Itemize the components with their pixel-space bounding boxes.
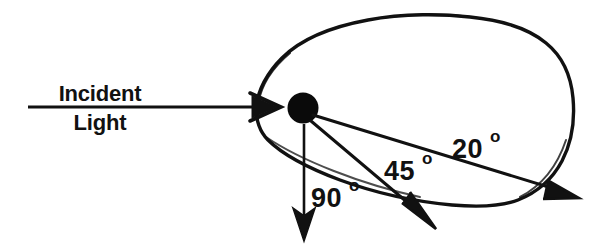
label-20-degrees: 20 o — [452, 127, 500, 164]
incident-label-line1: Incident — [59, 81, 143, 106]
label-90-degrees: 90 o — [311, 176, 359, 213]
label-90-number: 90 — [311, 183, 342, 213]
label-20-number: 20 — [452, 134, 483, 164]
label-45-degree-symbol: o — [422, 149, 432, 168]
incident-label-line2: Light — [74, 110, 128, 135]
label-90-degree-symbol: o — [349, 176, 359, 195]
scattering-diagram: Incident Light 20 o 45 o 90 o — [0, 0, 594, 245]
label-45-degrees: 45 o — [384, 149, 432, 186]
scattering-particle — [288, 93, 319, 124]
diagram-canvas: Incident Light 20 o 45 o 90 o — [0, 0, 594, 245]
label-20-degree-symbol: o — [490, 127, 500, 146]
label-45-number: 45 — [384, 156, 415, 186]
